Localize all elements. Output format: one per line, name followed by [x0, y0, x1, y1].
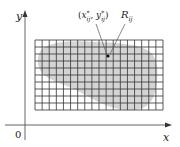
origin-label: 0 — [15, 129, 21, 140]
rectangle-label: Rij — [120, 9, 133, 23]
x-axis-arrow-icon — [165, 123, 172, 128]
y-axis-arrow-icon — [23, 10, 28, 17]
sample-point — [106, 54, 109, 57]
y-axis-label: y — [15, 10, 23, 23]
region-d — [38, 41, 158, 110]
sample-point-label: (x*ij, y*ij) — [78, 9, 109, 23]
double-integral-partition-diagram: y x 0 (x*ij, y*ij) Rij — [0, 0, 180, 147]
x-axis-label: x — [163, 131, 170, 144]
